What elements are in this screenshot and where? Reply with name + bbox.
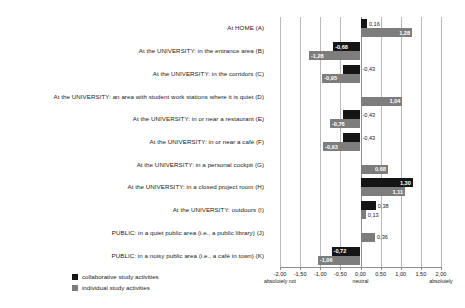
- axis-tick-label: 0,00: [355, 271, 366, 278]
- diverging-bar-chart: At HOME (A)At the UNIVERSITY: in the ent…: [0, 0, 465, 308]
- gridline: [381, 17, 382, 267]
- gridline: [300, 17, 301, 267]
- category-label: PUBLIC: in a quiet public area (i.e., a …: [112, 229, 264, 236]
- bar-value-label: -1,28: [311, 52, 324, 60]
- bar-value-label: -0,76: [332, 120, 345, 128]
- gridline: [280, 17, 281, 267]
- category-label: At the UNIVERSITY: in or near a café (F): [150, 138, 264, 145]
- bar: -0,43: [343, 65, 360, 74]
- axis-tick-label: -1,50: [294, 271, 307, 278]
- bar: -0,93: [323, 142, 360, 151]
- bar-value-label: -0,43: [362, 65, 375, 73]
- bar: 1,30: [361, 178, 413, 187]
- bar: -0,68: [333, 42, 360, 51]
- bar-value-label: 0,16: [369, 20, 380, 28]
- category-axis-labels: At HOME (A)At the UNIVERSITY: in the ent…: [0, 0, 268, 308]
- legend-label: collaborative study activities: [82, 273, 159, 281]
- bar-value-label: 0,68: [375, 165, 386, 173]
- gridline: [441, 17, 442, 267]
- axis-tick: [441, 267, 442, 270]
- axis-anchor-label: absolutely: [429, 278, 452, 285]
- category-label: At the UNIVERSITY: in a closed project r…: [128, 183, 264, 190]
- gridline: [401, 17, 402, 267]
- bar: 1,11: [361, 187, 406, 196]
- bar: -0,43: [343, 133, 360, 142]
- bar-value-label: 1,30: [400, 179, 411, 187]
- category-label: At the UNIVERSITY: outdoors (I): [173, 206, 264, 213]
- axis-tick-label: -0,50: [334, 271, 347, 278]
- axis-tick: [340, 267, 341, 270]
- bar: 0,38: [361, 201, 376, 210]
- bar-value-label: 1,28: [399, 29, 410, 37]
- category-label: At the UNIVERSITY: in the entrance area …: [139, 47, 264, 54]
- plot-area: 0,16-0,68-0,43-0,43-0,431,300,38-0,721,2…: [280, 17, 441, 267]
- zero-line: [361, 17, 362, 267]
- bar-value-label: -0,93: [325, 143, 338, 151]
- axis-tick-label: 1,00: [395, 271, 406, 278]
- axis-tick-label: 2,00: [436, 271, 447, 278]
- bar: -0,43: [343, 110, 360, 119]
- value-axis: -2,00-1,50-1,00-0,500,000,501,001,502,00…: [280, 267, 441, 301]
- axis-tick: [361, 267, 362, 270]
- bar-value-label: 0,36: [377, 233, 388, 241]
- axis-tick: [320, 267, 321, 270]
- axis-anchor-label: neutral: [353, 278, 369, 285]
- bar-value-label: -0,72: [334, 247, 347, 255]
- legend-swatch-icon: [72, 285, 78, 291]
- legend-swatch-icon: [72, 274, 78, 280]
- legend-item: individual study activities: [72, 282, 242, 293]
- axis-tick-label: -2,00: [274, 271, 287, 278]
- bar: -0,72: [332, 247, 361, 256]
- category-label: PUBLIC: in a noisy public area (i.e., a …: [112, 252, 264, 259]
- bar-value-label: 0,38: [378, 202, 389, 210]
- category-label: At the UNIVERSITY: in or near a restaura…: [133, 115, 264, 122]
- bar: 0,16: [361, 19, 367, 28]
- axis-tick: [381, 267, 382, 270]
- axis-tick: [300, 267, 301, 270]
- bar-value-label: -0,95: [324, 74, 337, 82]
- bar-value-label: 1,11: [393, 188, 404, 196]
- axis-tick: [421, 267, 422, 270]
- bar: 1,28: [361, 28, 413, 37]
- bar: 0,13: [361, 210, 366, 219]
- gridline: [421, 17, 422, 267]
- bar: -1,28: [309, 51, 361, 60]
- legend: collaborative study activitiesindividual…: [72, 271, 242, 293]
- axis-tick-label: -1,00: [314, 271, 327, 278]
- bar-value-label: 1,04: [389, 97, 400, 105]
- bar-value-label: -0,43: [362, 111, 375, 119]
- bar-value-label: -1,06: [320, 256, 333, 264]
- legend-label: individual study activities: [82, 284, 150, 292]
- bar: -0,95: [322, 74, 360, 83]
- category-label: At the UNIVERSITY: an area with student …: [54, 93, 264, 100]
- axis-tick-label: 0,50: [375, 271, 386, 278]
- bar-value-label: -0,68: [335, 43, 348, 51]
- category-label: At the UNIVERSITY: in the corridors (C): [153, 70, 264, 77]
- category-label: At the UNIVERSITY: in a personal cockpit…: [137, 161, 264, 168]
- bar-value-label: -0,43: [362, 134, 375, 142]
- bar: -0,76: [330, 119, 361, 128]
- legend-item: collaborative study activities: [72, 271, 242, 282]
- bar: 0,36: [361, 233, 375, 242]
- category-label: At HOME (A): [227, 24, 264, 31]
- bar: 0,68: [361, 165, 388, 174]
- axis-anchor-label: absolutely not: [264, 278, 296, 285]
- bar: 1,04: [361, 97, 403, 106]
- bar: -1,06: [318, 256, 361, 265]
- bar-value-label: 0,13: [368, 211, 379, 219]
- axis-tick: [401, 267, 402, 270]
- axis-tick-label: 1,50: [415, 271, 426, 278]
- axis-tick: [280, 267, 281, 270]
